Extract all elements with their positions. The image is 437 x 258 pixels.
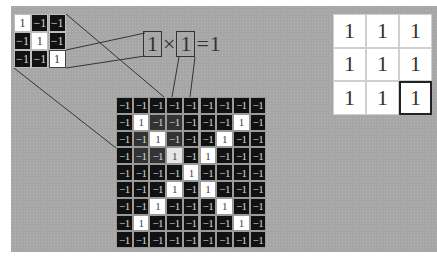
- equation-operator: ×: [162, 31, 176, 57]
- grid-cell: −1: [116, 131, 133, 148]
- equation-right-operand: 1: [176, 31, 195, 57]
- grid-cell: −1: [116, 215, 133, 232]
- grid-cell: −1: [166, 231, 183, 248]
- grid-cell: −1: [116, 114, 133, 131]
- result-cell: 1: [399, 14, 432, 48]
- grid-cell: −1: [233, 164, 250, 181]
- multiplication-equation: 1 × 1 = 1: [143, 30, 221, 58]
- grid-cell: −1: [133, 198, 150, 215]
- grid-cell: 1: [200, 147, 217, 164]
- grid-cell: 1: [166, 181, 183, 198]
- grid-cell: −1: [166, 131, 183, 148]
- grid-cell: −1: [166, 215, 183, 232]
- result-cell: 1: [333, 48, 366, 82]
- grid-cell: −1: [183, 114, 200, 131]
- grid-cell: −1: [116, 164, 133, 181]
- grid-cell: −1: [149, 147, 166, 164]
- equation-result: 1: [210, 31, 221, 57]
- grid-cell: 1: [216, 198, 233, 215]
- grid-cell: −1: [133, 131, 150, 148]
- grid-cell: 1: [149, 198, 166, 215]
- grid-cell: 1: [216, 131, 233, 148]
- result-cell: 1: [333, 81, 366, 115]
- grid-cell: 1: [133, 114, 150, 131]
- grid-cell: −1: [149, 215, 166, 232]
- grid-cell: −1: [216, 231, 233, 248]
- grid-cell: −1: [200, 114, 217, 131]
- kernel-cell: −1: [49, 32, 66, 50]
- grid-cell: −1: [250, 114, 267, 131]
- grid-cell: −1: [200, 131, 217, 148]
- grid-cell: −1: [233, 147, 250, 164]
- grid-cell: −1: [183, 97, 200, 114]
- grid-cell: −1: [233, 181, 250, 198]
- grid-cell: −1: [250, 181, 267, 198]
- grid-cell: −1: [250, 97, 267, 114]
- grid-cell: −1: [250, 131, 267, 148]
- grid-cell: −1: [166, 164, 183, 181]
- grid-cell: −1: [200, 215, 217, 232]
- grid-cell: −1: [200, 97, 217, 114]
- result-cell: 1: [366, 14, 399, 48]
- grid-cell: −1: [149, 97, 166, 114]
- result-cell: 1: [333, 14, 366, 48]
- grid-cell: −1: [133, 164, 150, 181]
- grid-cell: −1: [149, 231, 166, 248]
- grid-cell: −1: [216, 114, 233, 131]
- grid-cell: −1: [166, 97, 183, 114]
- kernel-cell: 1: [31, 32, 48, 50]
- grid-cell: −1: [200, 164, 217, 181]
- kernel-cell: −1: [31, 14, 48, 32]
- grid-cell: 1: [233, 114, 250, 131]
- grid-cell: −1: [183, 147, 200, 164]
- kernel-cell: 1: [49, 50, 66, 68]
- grid-cell: −1: [216, 215, 233, 232]
- grid-cell: 1: [166, 147, 183, 164]
- grid-cell: −1: [216, 164, 233, 181]
- grid-cell: −1: [116, 147, 133, 164]
- equation-equals: =: [195, 31, 209, 57]
- grid-cell: −1: [166, 198, 183, 215]
- equation-left-operand: 1: [143, 31, 162, 57]
- grid-cell: −1: [183, 215, 200, 232]
- grid-cell: 1: [133, 215, 150, 232]
- grid-cell: −1: [250, 147, 267, 164]
- kernel-cell: 1: [14, 14, 31, 32]
- grid-cell: −1: [149, 164, 166, 181]
- kernel-cell: −1: [49, 14, 66, 32]
- grid-cell: −1: [200, 231, 217, 248]
- result-cell: 1: [399, 81, 432, 115]
- grid-cell: −1: [216, 181, 233, 198]
- grid-cell: 1: [149, 131, 166, 148]
- grid-cell: −1: [183, 198, 200, 215]
- grid-cell: −1: [200, 198, 217, 215]
- grid-cell: −1: [149, 114, 166, 131]
- grid-cell: −1: [233, 131, 250, 148]
- result-cell: 1: [366, 81, 399, 115]
- grid-cell: −1: [116, 181, 133, 198]
- grid-cell: 1: [183, 164, 200, 181]
- grid-cell: −1: [133, 97, 150, 114]
- grid-cell: −1: [116, 231, 133, 248]
- kernel-cell: −1: [31, 50, 48, 68]
- grid-cell: −1: [116, 97, 133, 114]
- grid-cell: −1: [133, 181, 150, 198]
- grid-cell: −1: [116, 198, 133, 215]
- grid-cell: −1: [233, 231, 250, 248]
- grid-cell: −1: [183, 231, 200, 248]
- grid-cell: 1: [233, 215, 250, 232]
- grid-cell: −1: [166, 114, 183, 131]
- grid-cell: −1: [133, 147, 150, 164]
- grid-cell: −1: [233, 97, 250, 114]
- grid-cell: −1: [250, 231, 267, 248]
- grid-cell: 1: [200, 181, 217, 198]
- grid-cell: −1: [216, 97, 233, 114]
- grid-cell: −1: [183, 181, 200, 198]
- kernel-cell: −1: [14, 50, 31, 68]
- kernel-cell: −1: [14, 32, 31, 50]
- result-cell: 1: [366, 48, 399, 82]
- grid-cell: −1: [250, 198, 267, 215]
- grid-cell: −1: [216, 147, 233, 164]
- grid-cell: −1: [250, 164, 267, 181]
- result-cell: 1: [399, 48, 432, 82]
